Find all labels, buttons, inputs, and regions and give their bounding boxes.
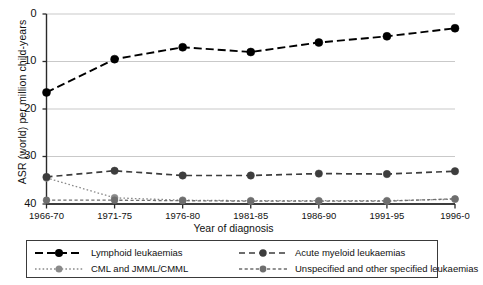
legend-item: CML and JMML/CMML: [33, 260, 188, 277]
legend-label: Lymphoid leukaemias: [85, 247, 183, 258]
legend-swatch-aml: [237, 246, 289, 260]
legend-label: Unspecified and other specified leukaemi…: [289, 263, 478, 274]
data-series: [43, 24, 460, 204]
legend: Lymphoid leukaemias Acute myeloid leukae…: [26, 240, 438, 278]
legend-item: Lymphoid leukaemias: [33, 244, 183, 261]
legend-item: Acute myeloid leukaemias: [237, 244, 405, 261]
legend-swatch-unspecified: [237, 262, 289, 276]
legend-swatch-lymphoid: [33, 246, 85, 260]
legend-swatch-cml: [33, 262, 85, 276]
legend-label: Acute myeloid leukaemias: [289, 247, 405, 258]
legend-item: Unspecified and other specified leukaemi…: [237, 260, 478, 277]
axis-ticks: [43, 14, 456, 209]
legend-label: CML and JMML/CMML: [85, 263, 188, 274]
